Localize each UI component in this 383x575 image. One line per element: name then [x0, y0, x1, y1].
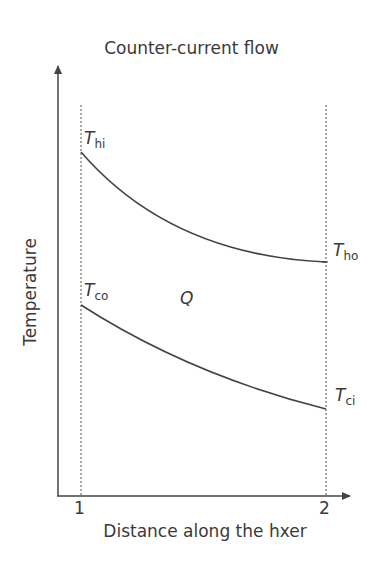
- x-axis-label: Distance along the hxer: [0, 521, 383, 541]
- label-t-hot-out: Tho: [333, 240, 358, 263]
- hot-stream-curve: [81, 152, 326, 262]
- x-tick-2: 2: [319, 498, 330, 518]
- x-tick-1: 1: [74, 498, 85, 518]
- cold-stream-curve: [81, 305, 326, 409]
- label-t-hot-in: Thi: [84, 128, 105, 151]
- y-axis-label: Temperature: [20, 232, 40, 352]
- chart-title: Counter-current flow: [0, 38, 383, 58]
- label-heat-q: Q: [180, 288, 193, 308]
- label-t-cold-in: Tci: [335, 385, 355, 408]
- label-t-cold-out: Tco: [84, 280, 108, 303]
